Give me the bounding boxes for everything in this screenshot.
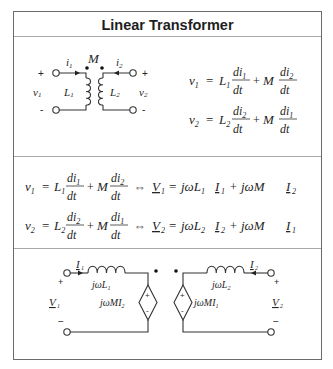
voltage-v1-label: v1 — [33, 86, 41, 99]
svg-text:=: = — [169, 218, 176, 233]
svg-text:M: M — [262, 73, 275, 88]
svg-text:v2: v2 — [25, 218, 35, 235]
svg-text:M: M — [96, 179, 109, 194]
svg-text:+: + — [230, 180, 237, 194]
current-arrow-i2-icon — [114, 71, 119, 76]
svg-text:di1: di1 — [280, 104, 293, 120]
V2-minus-label: − — [273, 316, 279, 327]
current-arrow-I2-icon — [251, 271, 256, 276]
svg-text:=: = — [169, 179, 176, 194]
svg-text:M: M — [262, 112, 275, 127]
v1-plus-label: + — [38, 68, 44, 79]
inductor-L2-label: L2 — [109, 86, 120, 99]
V2-plus-label: + — [274, 277, 279, 287]
svg-text:+: + — [253, 113, 260, 127]
svg-text:di2: di2 — [233, 104, 246, 120]
svg-text:jωM: jωM — [239, 179, 266, 194]
svg-text:di1: di1 — [111, 210, 124, 226]
svg-text:+: + — [230, 219, 237, 233]
svg-text:dt: dt — [67, 189, 77, 203]
svg-text:di2: di2 — [280, 65, 293, 81]
svg-text:1: 1 — [292, 226, 296, 235]
voltage-v2-label: v2 — [139, 86, 148, 99]
equation-v1: v1 = L1 di1 dt + M di2 dt — [189, 65, 297, 97]
source-right-minus: - — [181, 306, 184, 315]
terminal-V2-plus — [268, 270, 274, 276]
svg-text:di1: di1 — [233, 65, 246, 81]
source-right-plus: + — [180, 291, 185, 300]
svg-text:I: I — [214, 218, 220, 233]
diagram-canvas: M i1 i2 + - v1 L1 + - v2 L2 v1 = L1 di1 … — [0, 0, 333, 369]
svg-text:2: 2 — [161, 226, 165, 235]
terminal-bottom-left — [53, 107, 59, 113]
V1-plus-label: + — [58, 277, 63, 287]
svg-text:jωL1: jωL1 — [179, 179, 205, 196]
svg-text:dt: dt — [67, 228, 77, 242]
source-right-label: jωMI1 — [192, 297, 219, 309]
inductor-L1-coil — [86, 78, 91, 105]
svg-text:di2: di2 — [111, 171, 124, 187]
svg-text:jωL2: jωL2 — [179, 218, 205, 235]
source-left-plus: + — [145, 291, 150, 300]
inductor-jwL2-label: jωL2 — [210, 279, 230, 291]
svg-text:2: 2 — [221, 226, 225, 235]
inductor-L1-label: L1 — [63, 86, 74, 99]
svg-text:di2: di2 — [67, 210, 80, 226]
phasor-equation-row-1: v1 = L1 di1 dt + M di2 dt ⇔ V 1 = jωL1 I… — [25, 171, 296, 203]
current-arrow-i1-icon — [75, 71, 80, 76]
svg-text:+: + — [253, 74, 260, 88]
current-arrow-I1-icon — [78, 271, 83, 276]
terminal-top-right — [130, 70, 136, 76]
svg-text:dt: dt — [111, 228, 121, 242]
svg-text:dt: dt — [111, 189, 121, 203]
wire-bottom-left — [59, 105, 86, 110]
terminal-V1-minus — [64, 329, 70, 335]
phasor-equivalent-circuit — [64, 266, 274, 335]
svg-text:L2: L2 — [218, 112, 230, 129]
polarity-dot-right-icon — [100, 66, 104, 70]
svg-text:2: 2 — [292, 187, 296, 196]
inductor-jwL1-label: jωL1 — [90, 279, 110, 291]
terminal-top-left — [53, 70, 59, 76]
svg-text:I: I — [214, 179, 220, 194]
v2-minus-label: - — [142, 104, 145, 115]
svg-text:di1: di1 — [67, 171, 80, 187]
svg-text:dt: dt — [280, 122, 290, 136]
svg-text:2: 2 — [280, 303, 283, 309]
svg-text:v1: v1 — [189, 73, 199, 90]
iff-symbol: ⇔ — [134, 180, 146, 194]
svg-text:dt: dt — [233, 122, 243, 136]
svg-text:+: + — [87, 219, 94, 233]
inductor-L2-coil — [99, 78, 104, 105]
current-i2-label: i2 — [116, 56, 123, 70]
svg-text:=: = — [206, 73, 213, 88]
v1-minus-label: - — [40, 104, 43, 115]
svg-text:I: I — [285, 179, 291, 194]
svg-text:1: 1 — [57, 303, 60, 309]
svg-text:2: 2 — [255, 265, 258, 271]
mutual-inductance-label: M — [87, 51, 100, 66]
svg-text:=: = — [42, 179, 49, 194]
voltage-V2-label: V — [272, 296, 280, 308]
svg-text:L1: L1 — [218, 73, 230, 90]
source-left-label: jωMI2 — [98, 297, 125, 309]
source-left-minus: - — [146, 306, 149, 315]
inductor-jwL1-coil — [88, 266, 125, 273]
svg-text:+: + — [87, 180, 94, 194]
svg-text:1: 1 — [81, 265, 84, 271]
polarity-dot-left-icon — [154, 269, 158, 273]
inductor-jwL2-coil — [207, 266, 244, 273]
equation-v2: v2 = L2 di2 dt + M di1 dt — [189, 104, 297, 136]
svg-text:I: I — [285, 218, 291, 233]
svg-text:M: M — [96, 218, 109, 233]
iff-symbol: ⇔ — [134, 219, 146, 233]
svg-text:v2: v2 — [189, 112, 199, 129]
svg-text:dt: dt — [280, 83, 290, 97]
v2-plus-label: + — [142, 68, 148, 79]
svg-text:dt: dt — [233, 83, 243, 97]
polarity-dot-left-icon — [85, 66, 89, 70]
svg-text:1: 1 — [221, 187, 225, 196]
polarity-dot-right-icon — [174, 269, 178, 273]
svg-text:L1: L1 — [53, 179, 65, 196]
voltage-V1-label: V — [49, 296, 57, 308]
